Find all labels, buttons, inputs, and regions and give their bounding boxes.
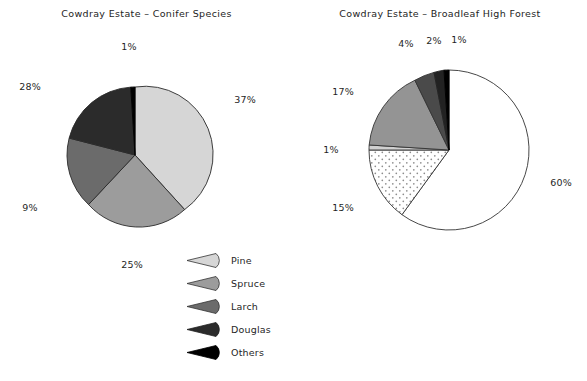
pie-label-beech: 15% (332, 202, 354, 213)
legend-label-larch: Larch (231, 301, 258, 312)
legend-swatch-douglas (186, 321, 224, 338)
pie-label-chestnut: 4% (398, 38, 413, 49)
chart-panel-conifer: Cowdray Estate – Conifer Species 37% 2 (0, 0, 293, 381)
pie-label-sycamore: 1% (323, 144, 338, 155)
legend-item-pine[interactable]: Pine (186, 249, 271, 272)
legend-label-others: Others (231, 347, 264, 358)
legend-swatch-spruce (186, 275, 224, 292)
legend-label-pine: Pine (231, 255, 252, 266)
pie-label-others: 1% (451, 34, 466, 45)
pie-label-ash: 17% (332, 86, 354, 97)
legend-item-larch[interactable]: Larch (186, 295, 271, 318)
figure-canvas: Cowdray Estate – Conifer Species 37% 2 (0, 0, 587, 381)
legend-item-douglas[interactable]: Douglas (186, 318, 271, 341)
legend-conifer: Pine Spruce Larch Douglas (186, 249, 271, 364)
legend-swatch-larch (186, 298, 224, 315)
pie-label-pine: 37% (234, 94, 256, 105)
pie-label-douglas: 28% (19, 81, 41, 92)
pie-label-others: 1% (121, 41, 136, 52)
pie-label-birch: 2% (426, 35, 441, 46)
legend-label-douglas: Douglas (231, 324, 271, 335)
pie-label-spruce: 25% (121, 259, 143, 270)
pie-label-larch: 9% (22, 202, 37, 213)
pie-label-oak: 60% (550, 177, 572, 188)
chart-panel-broadleaf: Cowdray Estate – Broadleaf High Forest (293, 0, 587, 381)
pie-chart-broadleaf: 60% 15% 1% 17% 4% 2% 1% (293, 0, 587, 381)
legend-item-spruce[interactable]: Spruce (186, 272, 271, 295)
legend-swatch-others (186, 344, 224, 361)
legend-swatch-pine (186, 252, 224, 269)
legend-label-spruce: Spruce (231, 278, 265, 289)
legend-item-others[interactable]: Others (186, 341, 271, 364)
